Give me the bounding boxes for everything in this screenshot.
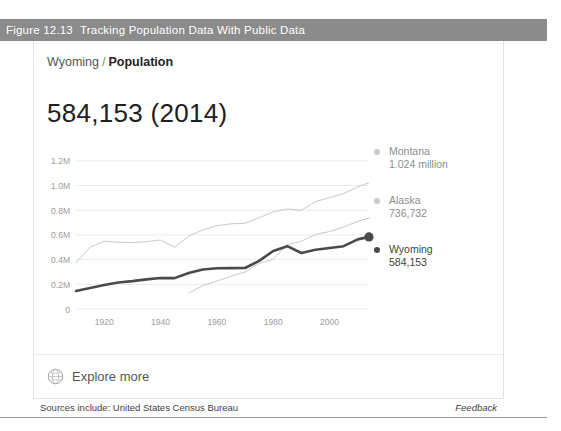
legend-dot-wyoming	[374, 247, 380, 253]
x-axis-tick-label: 1940	[151, 317, 170, 327]
figure-title: Tracking Population Data With Public Dat…	[73, 24, 305, 36]
y-axis-tick-label: 0	[65, 305, 70, 315]
series-line-montana	[76, 183, 369, 263]
breadcrumb-metric[interactable]: Population	[108, 55, 173, 69]
legend-series-name: Wyoming	[389, 243, 499, 256]
explore-more-button[interactable]: Explore more	[34, 354, 503, 398]
sources-text: Sources include: United States Census Bu…	[40, 402, 238, 413]
figure-caption-bar: Figure 12.13Tracking Population Data Wit…	[0, 19, 547, 41]
y-axis-tick-label: 0.4M	[51, 255, 70, 265]
legend-series-value: 584,153	[389, 256, 499, 269]
breadcrumb-region[interactable]: Wyoming	[47, 55, 99, 69]
legend-item-alaska[interactable]: Alaska736,732	[374, 194, 499, 220]
feedback-link[interactable]: Feedback	[455, 402, 497, 413]
series-end-marker-wyoming	[364, 232, 373, 241]
x-axis-tick-label: 1920	[95, 317, 114, 327]
y-axis-tick-label: 0.2M	[51, 280, 70, 290]
legend-item-montana[interactable]: Montana1.024 million	[374, 145, 499, 171]
y-axis-tick-label: 0.8M	[51, 206, 70, 216]
y-axis-tick-label: 0.6M	[51, 230, 70, 240]
y-axis-tick-label: 1.2M	[51, 156, 70, 166]
population-data-card: Wyoming/Population 584,153 (2014) 00.2M0…	[33, 41, 504, 399]
x-axis-tick-label: 1960	[207, 317, 226, 327]
series-line-alaska	[189, 218, 369, 293]
x-axis-tick-label: 2000	[320, 317, 339, 327]
y-axis-tick-label: 1.0M	[51, 181, 70, 191]
figure-number: Figure 12.13	[6, 24, 73, 36]
legend-series-name: Montana	[389, 145, 499, 158]
series-line-wyoming	[76, 237, 369, 291]
legend-series-name: Alaska	[389, 194, 499, 207]
legend-series-value: 736,732	[389, 207, 499, 220]
legend-dot-montana	[374, 149, 380, 155]
chart-legend: Montana1.024 millionAlaska736,732Wyoming…	[374, 145, 499, 292]
legend-series-value: 1.024 million	[389, 158, 499, 171]
breadcrumb: Wyoming/Population	[34, 41, 503, 69]
legend-item-wyoming[interactable]: Wyoming584,153	[374, 243, 499, 269]
sources-row: Sources include: United States Census Bu…	[33, 402, 504, 413]
headline-value: 584,153 (2014)	[47, 98, 228, 129]
population-line-chart: 00.2M0.4M0.6M0.8M1.0M1.2M192019401960198…	[34, 141, 503, 351]
bottom-divider	[0, 417, 547, 418]
figure-caption-text: Figure 12.13Tracking Population Data Wit…	[0, 24, 305, 36]
legend-dot-alaska	[374, 198, 380, 204]
explore-more-label: Explore more	[72, 369, 149, 384]
x-axis-tick-label: 1980	[264, 317, 283, 327]
globe-icon	[47, 368, 64, 385]
